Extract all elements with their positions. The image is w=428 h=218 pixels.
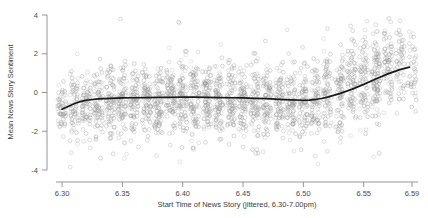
- scatter-point: [170, 68, 174, 72]
- scatter-point: [251, 148, 255, 152]
- scatter-point: [167, 60, 171, 64]
- scatter-point: [81, 127, 85, 131]
- scatter-point: [249, 85, 253, 89]
- scatter-point: [266, 133, 270, 137]
- scatter-point: [76, 142, 80, 146]
- scatter-point: [264, 39, 268, 43]
- scatter-point: [414, 110, 418, 114]
- scatter-point: [245, 85, 249, 89]
- scatter-point: [69, 151, 73, 155]
- scatter-point: [329, 52, 333, 56]
- scatter-point: [325, 149, 329, 153]
- scatter-point: [287, 131, 291, 135]
- scatter-point: [316, 162, 320, 166]
- scatter-point: [299, 148, 303, 152]
- scatter-point: [252, 129, 256, 133]
- scatter-point: [338, 140, 342, 144]
- scatter-point: [374, 23, 378, 27]
- scatter-point: [136, 82, 140, 86]
- scatter-point: [86, 70, 90, 74]
- scatter-point: [361, 38, 365, 42]
- scatter-point: [364, 40, 368, 44]
- scatter-point: [389, 20, 393, 24]
- scatter-point: [358, 116, 362, 120]
- scatter-point: [313, 154, 317, 158]
- scatter-point: [398, 19, 402, 23]
- scatter-point: [76, 138, 80, 142]
- scatter-point: [347, 106, 351, 110]
- scatter-point: [387, 17, 391, 21]
- scatter-point: [213, 105, 217, 109]
- y-tick-label: 0: [34, 88, 38, 97]
- scatter-point: [397, 28, 401, 32]
- scatter-point: [180, 146, 184, 150]
- scatter-point: [399, 87, 403, 91]
- scatter-point: [292, 149, 296, 153]
- scatter-point: [101, 130, 105, 134]
- scatter-point: [390, 68, 394, 72]
- scatter-point: [372, 155, 376, 159]
- scatter-point: [346, 82, 350, 86]
- scatter-point: [408, 55, 412, 59]
- scatter-point: [312, 57, 316, 61]
- y-tick-label: 4: [34, 11, 38, 20]
- scatter-point: [286, 122, 290, 126]
- scatter-point: [364, 132, 368, 136]
- scatter-point: [305, 65, 309, 69]
- scatter-point: [244, 82, 248, 86]
- scatter-point: [117, 136, 121, 140]
- scatter-point: [178, 21, 182, 25]
- chart-canvas: 420-2-4 6.306.356.406.456.506.556.59 Mea…: [0, 0, 428, 218]
- scatter-point: [309, 132, 313, 136]
- scatter-point: [129, 139, 133, 143]
- scatter-point: [86, 85, 90, 89]
- scatter-point: [121, 122, 125, 126]
- scatter-point: [268, 80, 272, 84]
- scatter-point: [402, 91, 406, 95]
- scatter-point: [414, 98, 418, 102]
- scatter-point: [134, 122, 138, 126]
- scatter-point: [93, 75, 97, 79]
- scatter-point: [178, 160, 182, 164]
- scatter-point: [242, 134, 246, 138]
- scatter-point: [123, 141, 127, 145]
- scatter-point: [100, 85, 104, 89]
- scatter-point: [253, 72, 257, 76]
- scatter-point: [75, 52, 79, 56]
- scatter-point: [322, 49, 326, 53]
- scatter-point: [184, 53, 188, 57]
- scatter-point: [134, 69, 138, 73]
- y-axis-ticks: 420-2-4: [31, 11, 47, 175]
- scatter-point: [132, 62, 136, 66]
- scatter-point: [165, 115, 169, 119]
- scatter-point: [76, 77, 80, 81]
- scatter-point: [220, 56, 224, 60]
- scatter-point: [273, 92, 277, 96]
- scatter-point: [167, 46, 171, 50]
- scatter-point: [123, 59, 127, 63]
- y-tick-label: -2: [31, 127, 38, 136]
- scatter-point: [376, 47, 380, 51]
- scatter-point: [394, 52, 398, 56]
- scatter-point: [145, 138, 149, 142]
- scatter-point: [263, 136, 267, 140]
- scatter-point: [325, 27, 329, 31]
- scatter-point: [131, 78, 135, 82]
- scatter-point: [281, 70, 285, 74]
- scatter-point: [196, 50, 200, 54]
- scatter-point: [249, 63, 253, 67]
- scatter-point: [322, 140, 326, 144]
- scatter-point: [146, 134, 150, 138]
- scatter-point: [92, 89, 96, 93]
- scatter-point: [75, 131, 79, 135]
- scatter-point: [298, 71, 302, 75]
- scatter-point: [375, 108, 379, 112]
- scatter-point: [155, 154, 159, 158]
- scatter-point: [82, 139, 86, 143]
- scatter-point: [353, 43, 357, 47]
- scatter-point: [68, 139, 72, 143]
- scatter-point: [124, 63, 128, 67]
- scatter-point: [257, 125, 261, 129]
- scatter-point: [315, 131, 319, 135]
- scatter-point: [359, 129, 363, 133]
